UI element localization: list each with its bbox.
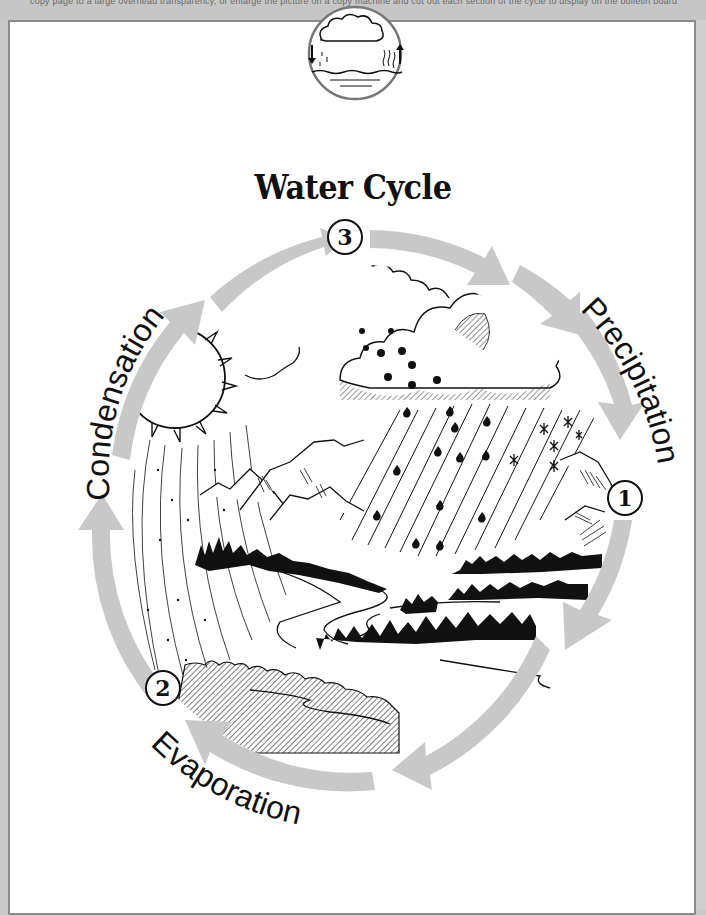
arrow-segment-top-right (370, 230, 510, 285)
rain-lines (340, 404, 598, 556)
water-cycle-mini-icon (308, 7, 404, 99)
label-precipitation: Precipitation (575, 290, 687, 466)
rain-mist-lines (580, 520, 606, 546)
stage-badge-2: 2 (145, 670, 181, 706)
storm-cloud (340, 294, 560, 388)
mountains (200, 440, 620, 520)
arrow-segment-bottom-right (392, 636, 550, 790)
page-title: Water Cycle (28, 168, 678, 207)
arrow-segment-left (78, 494, 166, 700)
stage-badge-3: 3 (327, 219, 363, 255)
arrow-segment-top-left (210, 228, 345, 312)
tree-lines (195, 537, 602, 650)
stage-badge-1: 1 (607, 480, 643, 516)
